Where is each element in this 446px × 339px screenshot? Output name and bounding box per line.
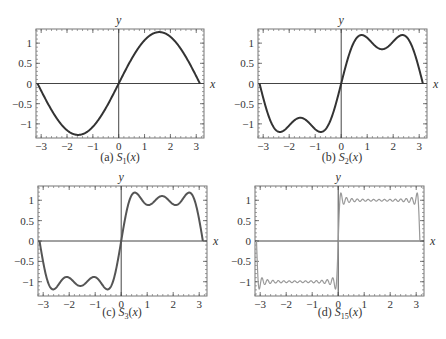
panel-a: −3−2−10123−1−0.500.51xy(a) S1(x)	[12, 13, 216, 166]
panel-c: −3−2−10123−1−0.500.51xy(c) S3(x)	[14, 170, 219, 321]
panel-caption: (d) S15(x)	[318, 305, 362, 321]
x-tick-label: −1	[87, 140, 99, 152]
y-tick-label: −0.5	[234, 98, 254, 110]
y-tick-label: −0.5	[14, 255, 34, 267]
y-tick-label: 0.5	[18, 57, 32, 69]
x-tick-label: −3	[257, 140, 269, 152]
y-tick-label: −0.5	[12, 98, 32, 110]
y-tick-label: 0	[29, 235, 35, 247]
y-axis-label: y	[115, 13, 122, 27]
x-tick-label: 1	[142, 140, 148, 152]
y-tick-label: 1	[246, 194, 252, 206]
y-tick-label: 1	[249, 37, 255, 49]
y-tick-label: 0.5	[20, 215, 34, 227]
y-tick-label: −1	[20, 118, 32, 130]
x-tick-label: 3	[196, 298, 202, 310]
x-tick-label: 2	[390, 140, 396, 152]
panel-caption: (c) S3(x)	[102, 305, 142, 321]
y-tick-label: −0.5	[231, 255, 251, 267]
x-tick-label: 1	[364, 140, 370, 152]
y-tick-label: 1	[27, 37, 33, 49]
x-tick-label: −1	[309, 140, 321, 152]
x-tick-label: −2	[283, 140, 295, 152]
x-axis-label: x	[429, 234, 436, 248]
x-tick-label: −2	[63, 298, 75, 310]
y-axis-label: y	[335, 170, 342, 184]
y-tick-label: 0	[246, 235, 252, 247]
panel-b: −3−2−10123−1−0.500.51xy(b) S2(x)	[234, 13, 439, 166]
x-tick-label: −3	[35, 140, 47, 152]
panel-d: −3−2−10123−1−0.500.51xy(d) S15(x)	[231, 170, 436, 321]
x-tick-label: −3	[254, 298, 266, 310]
y-tick-label: −1	[239, 276, 251, 288]
y-tick-label: 0	[27, 78, 33, 90]
x-tick-label: 1	[361, 298, 367, 310]
y-axis-label: y	[338, 13, 345, 27]
y-tick-label: 0.5	[240, 57, 254, 69]
x-tick-label: 3	[416, 140, 422, 152]
x-tick-label: −3	[37, 298, 49, 310]
x-tick-label: −2	[61, 140, 73, 152]
x-axis-label: x	[212, 234, 219, 248]
y-tick-label: −1	[22, 276, 34, 288]
x-tick-label: 2	[170, 298, 176, 310]
x-tick-label: 1	[144, 298, 150, 310]
x-tick-label: −1	[89, 298, 101, 310]
y-tick-label: 0.5	[237, 215, 251, 227]
x-tick-label: 2	[168, 140, 174, 152]
y-tick-label: 1	[29, 194, 35, 206]
x-tick-label: −1	[306, 298, 318, 310]
panel-caption: (b) S2(x)	[322, 150, 362, 166]
y-tick-label: −1	[242, 118, 254, 130]
y-axis-label: y	[118, 170, 125, 184]
x-axis-label: x	[209, 77, 216, 91]
x-tick-label: −2	[280, 298, 292, 310]
fourier-figure: −3−2−10123−1−0.500.51xy(a) S1(x)−3−2−101…	[0, 0, 446, 339]
y-tick-label: 0	[249, 78, 255, 90]
x-tick-label: 3	[193, 140, 199, 152]
panel-caption: (a) S1(x)	[100, 150, 140, 166]
x-axis-label: x	[432, 77, 439, 91]
x-tick-label: 3	[413, 298, 419, 310]
x-tick-label: 2	[387, 298, 393, 310]
